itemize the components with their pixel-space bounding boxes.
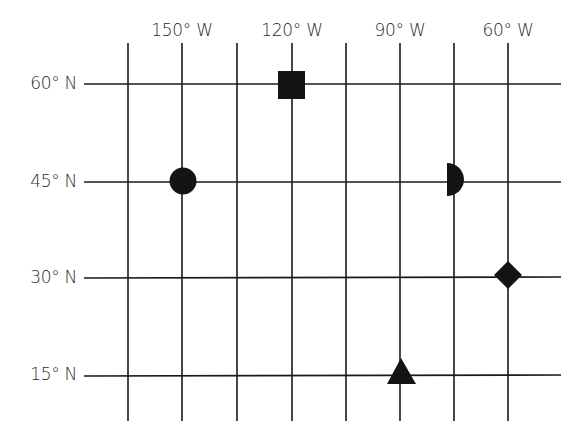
latitude-lines [84,84,561,376]
parallel-line-15n [84,375,561,376]
latitude-label-60n: 60° N [17,75,77,92]
longitude-label-60w: 60° W [468,22,548,39]
square-marker [278,71,305,99]
circle-marker [170,168,197,195]
half-circle-marker [447,163,464,196]
longitude-lines [128,43,508,421]
latitude-label-30n: 30° N [17,269,77,286]
parallel-line-30n [84,277,561,278]
latitude-label-15n: 15° N [17,366,77,383]
longitude-label-120w: 120° W [252,22,332,39]
latitude-label-45n: 45° N [17,173,77,190]
longitude-label-150w: 150° W [142,22,222,39]
coordinate-grid [0,0,588,444]
diamond-marker [494,261,522,289]
triangle-marker [387,358,416,384]
longitude-label-90w: 90° W [360,22,440,39]
